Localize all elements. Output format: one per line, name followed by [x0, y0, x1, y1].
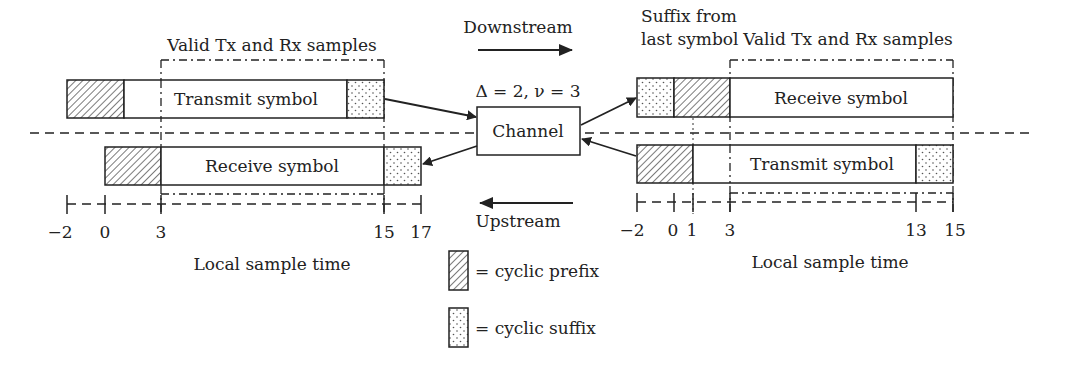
- downstream-label: Downstream: [463, 17, 572, 37]
- valid-samples-label-right: Valid Tx and Rx samples: [742, 29, 953, 49]
- upstream-label: Upstream: [475, 211, 560, 231]
- right-transmit-symbol: Transmit symbol: [637, 145, 953, 183]
- right-receive-symbol: Receive symbol: [637, 78, 953, 117]
- diagram-canvas: Valid Tx and Rx samples Transmit symbol …: [0, 0, 1074, 369]
- left-receive-label: Receive symbol: [205, 156, 339, 176]
- legend-prefix-label: = cyclic prefix: [475, 261, 600, 281]
- legend: = cyclic prefix = cyclic suffix: [449, 251, 600, 347]
- suffix-note-line1: Suffix from: [641, 6, 737, 26]
- left-transmit-label: Transmit symbol: [174, 89, 318, 109]
- legend-prefix-swatch: [449, 251, 468, 290]
- tick-label: 13: [905, 220, 927, 240]
- channel-label: Channel: [492, 121, 564, 141]
- tick-label: 0: [668, 220, 679, 240]
- cyclic-prefix-block: [637, 145, 693, 183]
- arrow-icon: [385, 99, 476, 117]
- suffix-note-line2: last symbol: [641, 29, 739, 49]
- tick-label: −2: [47, 222, 72, 242]
- cyclic-suffix-block: [916, 145, 953, 183]
- tick-label: 17: [410, 222, 432, 242]
- valid-samples-label-left: Valid Tx and Rx samples: [166, 35, 377, 55]
- local-sample-time-label-right: Local sample time: [751, 252, 908, 272]
- local-sample-time-label-left: Local sample time: [193, 254, 350, 274]
- channel-params-label: Δ = 2, ν = 3: [475, 81, 580, 101]
- cyclic-prefix-block: [67, 80, 124, 118]
- timeline-left: [67, 195, 421, 214]
- arrow-icon: [581, 98, 636, 125]
- cyclic-suffix-block: [384, 147, 421, 185]
- cyclic-prefix-block: [674, 78, 730, 117]
- cyclic-suffix-block: [347, 80, 384, 118]
- cyclic-suffix-block: [637, 78, 674, 117]
- arrow-icon: [582, 139, 636, 156]
- tick-label: 15: [944, 220, 966, 240]
- right-receive-label: Receive symbol: [774, 88, 908, 108]
- tick-label: 15: [373, 222, 395, 242]
- tick-label: 1: [687, 220, 698, 240]
- legend-suffix-swatch: [449, 308, 468, 347]
- tick-label: 3: [156, 222, 167, 242]
- tick-label: 0: [100, 222, 111, 242]
- tick-label: 3: [725, 220, 736, 240]
- timeline-right: [637, 193, 953, 212]
- tick-label: −2: [619, 220, 644, 240]
- left-receive-symbol: Receive symbol: [105, 147, 421, 185]
- cyclic-prefix-block: [105, 147, 161, 185]
- left-transmit-symbol: Transmit symbol: [67, 80, 384, 118]
- right-transmit-label: Transmit symbol: [750, 154, 894, 174]
- arrow-icon: [423, 146, 477, 164]
- legend-suffix-label: = cyclic suffix: [475, 318, 596, 338]
